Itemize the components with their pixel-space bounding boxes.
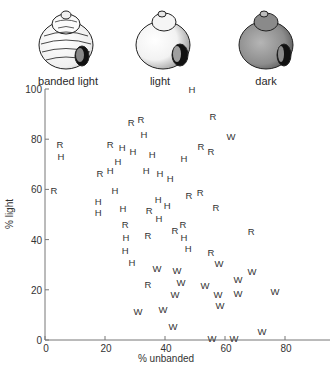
data-point-r: R (96, 168, 103, 179)
data-point-w: W (169, 321, 178, 332)
data-point-h: H (155, 194, 162, 205)
data-point-r: R (207, 146, 214, 157)
data-point-r: R (51, 185, 58, 196)
data-point-h: H (123, 232, 130, 243)
data-point-w: W (271, 286, 280, 297)
y-tick-label: 100 (25, 84, 42, 95)
data-point-r: R (144, 279, 151, 290)
data-point-w: W (248, 266, 257, 277)
y-tick-label: 40 (31, 235, 43, 246)
data-point-h: H (143, 165, 150, 176)
data-point-h: H (114, 156, 121, 167)
data-point-r: R (144, 230, 151, 241)
data-point-w: W (230, 333, 239, 344)
data-point-r: R (171, 225, 178, 236)
data-point-h: H (95, 207, 102, 218)
data-point-w: W (152, 263, 161, 274)
shell-label-light: light (150, 75, 170, 87)
data-point-r: R (138, 114, 145, 125)
data-point-h: H (164, 200, 171, 211)
data-point-r: R (107, 139, 114, 150)
data-point-w: W (233, 288, 242, 299)
data-point-h: H (141, 129, 148, 140)
data-point-h: H (122, 245, 129, 256)
data-point-h: H (156, 213, 163, 224)
data-point-h: H (180, 232, 187, 243)
data-point-h: H (149, 149, 156, 160)
data-point-h: H (129, 257, 136, 268)
data-point-r: R (180, 219, 187, 230)
data-point-h: H (95, 196, 102, 207)
y-tick-label: 60 (31, 184, 43, 195)
data-point-h: H (120, 203, 127, 214)
data-point-r: R (122, 219, 129, 230)
data-point-r: R (146, 205, 153, 216)
data-point-r: R (213, 202, 220, 213)
y-tick-label: 0 (36, 335, 42, 346)
data-point-h: H (189, 84, 196, 95)
y-tick-label: 20 (31, 285, 43, 296)
data-point-h: H (156, 168, 163, 179)
data-point-r: R (186, 190, 193, 201)
y-tick-label: 80 (31, 134, 43, 145)
x-tick-label: 20 (100, 343, 112, 354)
data-point-r: R (197, 187, 204, 198)
data-point-r: R (210, 111, 217, 122)
data-point-h: H (107, 165, 114, 176)
data-point-w: W (176, 277, 185, 288)
y-axis-label: % light (4, 199, 15, 229)
banded-light-shell-icon (39, 11, 93, 69)
data-point-w: W (200, 280, 209, 291)
data-point-h: H (119, 142, 126, 153)
data-point-w: W (170, 289, 179, 300)
data-point-r: R (128, 117, 135, 128)
scatter-chart: banded light light dark 020406080100 020… (0, 0, 336, 374)
data-point-h: H (111, 185, 118, 196)
data-point-w: W (214, 289, 223, 300)
data-point-r: R (248, 226, 255, 237)
dark-shell-icon (239, 11, 293, 69)
data-point-w: W (208, 333, 217, 344)
shell-label-dark: dark (255, 75, 277, 87)
data-point-h: H (57, 151, 64, 162)
shell-label-banded-light: banded light (38, 75, 98, 87)
data-point-w: W (233, 274, 242, 285)
data-point-h: H (180, 153, 187, 164)
data-point-r: R (57, 139, 64, 150)
x-axis-label: % unbanded (138, 353, 194, 364)
data-point-w: W (134, 306, 143, 317)
light-shell-icon (136, 11, 190, 69)
data-point-h: H (185, 243, 192, 254)
scatter-points: HRRRHWRHRHHRRHHHRHHHHRHRRHHHRHHHRRRRHRHR… (51, 84, 280, 345)
data-point-w: W (257, 326, 266, 337)
x-tick-label: 60 (220, 343, 232, 354)
x-tick-label: 80 (280, 343, 292, 354)
data-point-r: R (198, 141, 205, 152)
x-tick-label: 0 (43, 343, 49, 354)
data-point-w: W (158, 304, 167, 315)
data-point-w: W (173, 265, 182, 276)
data-point-w: W (227, 131, 236, 142)
data-point-w: W (215, 258, 224, 269)
data-point-r: R (207, 247, 214, 258)
data-point-h: H (167, 173, 174, 184)
data-point-h: H (129, 146, 136, 157)
data-point-w: W (215, 300, 224, 311)
